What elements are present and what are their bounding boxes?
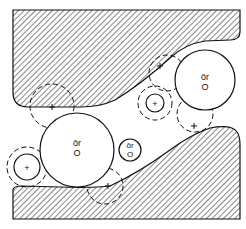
label-small-top: ōr	[126, 141, 133, 150]
particle-surface-diagram: ōr O ōr O ōr O + +	[0, 0, 246, 229]
label-left-top: ōr	[73, 138, 81, 148]
contact-mark-right	[191, 123, 197, 129]
diagram-canvas: ōr O ōr O ōr O + +	[0, 0, 246, 229]
label-right-bottom: O	[201, 82, 208, 92]
plus-icon-left: +	[24, 163, 29, 173]
plus-icon-upper: +	[152, 99, 157, 109]
label-small-bottom: O	[127, 150, 133, 159]
label-right-top: ōr	[201, 72, 209, 82]
label-left-bottom: O	[73, 148, 80, 158]
